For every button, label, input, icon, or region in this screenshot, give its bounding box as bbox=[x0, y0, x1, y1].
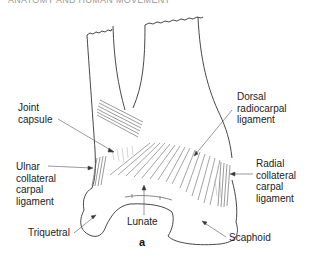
leader-joint-capsule bbox=[58, 119, 114, 152]
label-line: capsule bbox=[18, 114, 52, 126]
label-line: Radial bbox=[256, 158, 296, 170]
label-line: ligament bbox=[237, 114, 286, 126]
label-line: ligament bbox=[256, 193, 296, 205]
upper-ligament-band bbox=[97, 100, 143, 137]
label-scaphoid: Scaphoid bbox=[229, 232, 271, 244]
joint-capsule-texture bbox=[112, 146, 221, 198]
label-line: Ulnar bbox=[16, 161, 56, 173]
figure-letter: a bbox=[139, 236, 145, 248]
label-line: collateral bbox=[256, 170, 296, 182]
label-lunate: Lunate bbox=[127, 216, 158, 228]
ulna-bone bbox=[87, 29, 112, 35]
label-line: carpal bbox=[16, 184, 56, 196]
label-radial-collateral: Radial collateral carpal ligament bbox=[256, 158, 296, 204]
dorsal-radiocarpal-ligament bbox=[110, 143, 220, 205]
label-line: carpal bbox=[256, 181, 296, 193]
radius-bone bbox=[145, 17, 203, 25]
label-line: collateral bbox=[16, 173, 56, 185]
label-joint-capsule: Joint capsule bbox=[18, 102, 52, 125]
label-dorsal-radiocarpal: Dorsal radiocarpal ligament bbox=[237, 91, 286, 126]
leader-triquetral bbox=[74, 216, 95, 233]
label-line: ligament bbox=[16, 196, 56, 208]
leader-scaphoid bbox=[203, 222, 226, 237]
label-line: radiocarpal bbox=[237, 103, 286, 115]
label-triquetral: Triquetral bbox=[28, 227, 70, 239]
label-line: Joint bbox=[18, 102, 52, 114]
label-line: Dorsal bbox=[237, 91, 286, 103]
label-ulnar-collateral: Ulnar collateral carpal ligament bbox=[16, 161, 56, 207]
radial-collateral-ligament bbox=[218, 162, 230, 207]
